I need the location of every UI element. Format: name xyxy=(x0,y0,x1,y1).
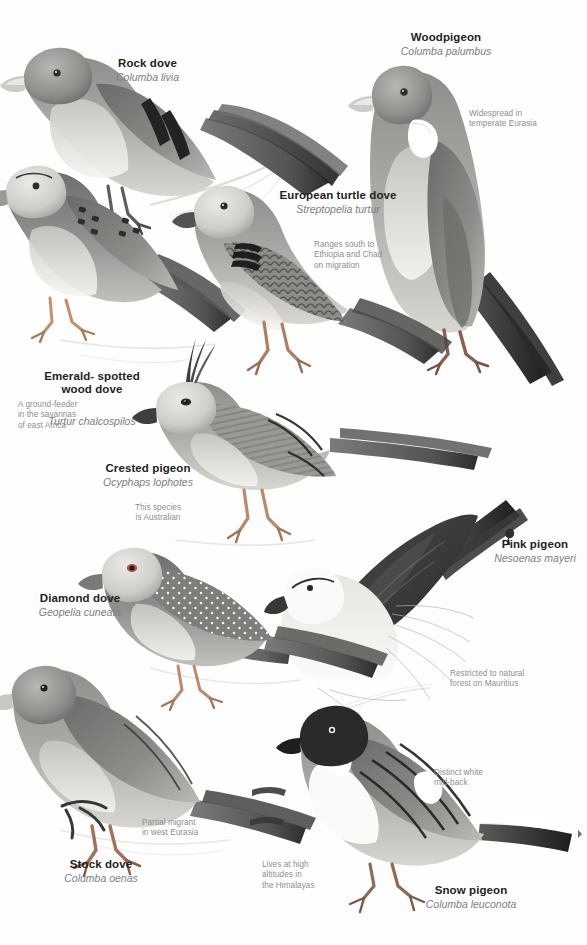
label-diamond-dove: Diamond dove Geopelia cuneata xyxy=(24,592,136,619)
bird-pink-pigeon xyxy=(204,500,528,724)
note-european-turtle-dove: Ranges south to Ethiopia and Chad on mig… xyxy=(314,240,424,271)
note-crested-pigeon: This species is Australian xyxy=(112,503,204,524)
common-name-stock-dove: Stock dove xyxy=(46,858,156,871)
common-name-snow-pigeon: Snow pigeon xyxy=(412,884,530,897)
label-european-turtle-dove: European turtle dove Streptopelia turtur xyxy=(262,189,414,216)
scientific-name-woodpigeon: Columba palumbus xyxy=(366,45,526,58)
note-snow-pigeon: Lives at high altitudes in the Himalayas xyxy=(262,860,352,891)
label-rock-dove: Rock dove Columba livia xyxy=(116,57,179,84)
label-emerald-spotted-wood-dove: Emerald- spotted wood dove Turtur chalco… xyxy=(22,352,162,446)
label-crested-pigeon: Crested pigeon Ocyphaps lophotes xyxy=(92,462,204,489)
label-pink-pigeon: Pink pigeon Nesoenas mayeri xyxy=(487,538,583,565)
note-woodpigeon: Widespread in temperate Eurasia xyxy=(469,109,579,130)
common-name-pink-pigeon: Pink pigeon xyxy=(487,538,583,551)
note-emerald-spotted-wood-dove: A ground-feeder in the savannas of east … xyxy=(18,400,128,431)
common-name-diamond-dove: Diamond dove xyxy=(24,592,136,605)
common-name-emerald-spotted-wood-dove: Emerald- spotted wood dove xyxy=(22,370,162,396)
plate-artwork xyxy=(0,0,587,945)
scientific-name-crested-pigeon: Ocyphaps lophotes xyxy=(92,476,204,489)
common-name-woodpigeon: Woodpigeon xyxy=(366,31,526,44)
label-snow-pigeon: Snow pigeon Columba leuconota xyxy=(412,884,530,911)
label-stock-dove: Stock dove Columba oenas xyxy=(46,858,156,885)
scientific-name-european-turtle-dove: Streptopelia turtur xyxy=(262,203,414,216)
label-woodpigeon: Woodpigeon Columba palumbus xyxy=(366,31,526,58)
illustration-plate: Rock dove Columba livia Woodpigeon Colum… xyxy=(0,0,587,945)
note-stock-dove: Partial migrant in west Eurasia xyxy=(142,818,252,839)
scientific-name-pink-pigeon: Nesoenas mayeri xyxy=(487,552,583,565)
scientific-name-stock-dove: Columba oenas xyxy=(46,872,156,885)
callout-snow-pigeon-midback: Distinct white mid-back xyxy=(434,768,530,789)
note-pink-pigeon: Restricted to natural forest on Mauritiu… xyxy=(450,669,580,690)
common-name-crested-pigeon: Crested pigeon xyxy=(92,462,204,475)
scientific-name-diamond-dove: Geopelia cuneata xyxy=(24,606,136,619)
scientific-name-rock-dove: Columba livia xyxy=(116,71,179,84)
common-name-european-turtle-dove: European turtle dove xyxy=(262,189,414,202)
scientific-name-snow-pigeon: Columba leuconota xyxy=(412,898,530,911)
common-name-rock-dove: Rock dove xyxy=(116,57,179,70)
